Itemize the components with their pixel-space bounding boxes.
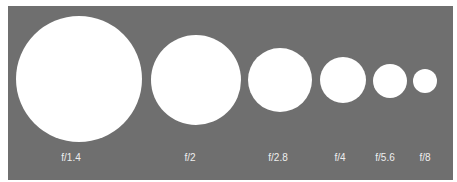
aperture-label-f2: f/2 <box>184 152 195 163</box>
aperture-label-f4: f/4 <box>334 152 345 163</box>
aperture-circle-f1-4 <box>16 16 142 142</box>
aperture-circle-f2 <box>151 35 241 125</box>
aperture-label-f8: f/8 <box>419 152 430 163</box>
aperture-circle-f2-8 <box>248 48 312 112</box>
aperture-circle-f5-6 <box>373 64 407 98</box>
aperture-label-f1-4: f/1.4 <box>61 152 80 163</box>
aperture-label-f5-6: f/5.6 <box>375 152 394 163</box>
aperture-circle-f4 <box>320 57 366 103</box>
aperture-label-f2-8: f/2.8 <box>268 152 287 163</box>
aperture-circle-f8 <box>413 69 437 93</box>
